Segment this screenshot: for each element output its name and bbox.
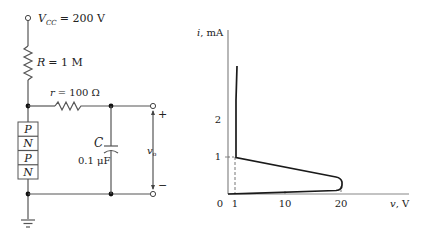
layer-4-label: N [22, 166, 33, 179]
resistor-r-icon [55, 102, 84, 110]
x-tick-1: 1 [232, 198, 238, 209]
ground-icon [21, 220, 35, 227]
circuit-schematic: VCC= 200 V R= 1 M r= 100 Ω P N P N [18, 12, 167, 227]
layer-1-label: P [23, 123, 32, 136]
pnpn-device: P N P N [18, 122, 38, 179]
output-plus-label: + [158, 108, 167, 121]
supply-terminal [25, 15, 30, 20]
layer-3-label: P [23, 152, 32, 165]
x-axis-label: v, V [390, 198, 410, 209]
y-tick-1: 1 [215, 151, 221, 162]
output-terminal-minus [150, 191, 155, 196]
layer-2-label: N [22, 137, 33, 150]
x-tick-0: 0 [217, 198, 223, 209]
output-minus-label: − [158, 179, 167, 192]
x-tick-10: 10 [279, 198, 292, 209]
resistor-R-icon [24, 46, 32, 80]
resistor-r-label: r= 100 Ω [50, 87, 100, 98]
capacitor-symbol: C [94, 136, 103, 150]
iv-curve [228, 66, 342, 194]
capacitor-value: 0.1 μF [78, 155, 111, 166]
resistor-R-label: R= 1 M [36, 56, 83, 69]
x-tick-20: 20 [335, 198, 348, 209]
output-terminal-plus [150, 103, 155, 108]
y-axis-label: i, mA [197, 27, 224, 38]
iv-characteristic-chart: i, mA v, V 2 1 0 1 10 20 [197, 27, 410, 209]
supply-label: VCC= 200 V [38, 12, 106, 27]
output-voltage-label: vo [147, 145, 157, 157]
y-tick-2: 2 [215, 114, 221, 125]
diagram-canvas: VCC= 200 V R= 1 M r= 100 Ω P N P N [0, 0, 434, 241]
